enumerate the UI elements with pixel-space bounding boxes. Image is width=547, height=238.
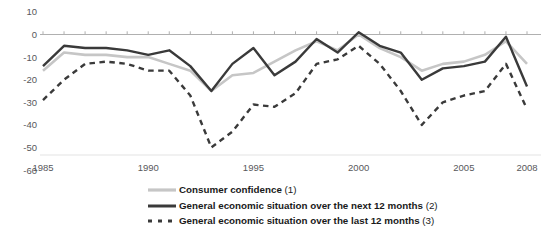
y-axis-tick-label: -50 <box>23 142 37 153</box>
chart-container: 100-10-20-30-40-50-60 198519901995200020… <box>0 0 547 238</box>
legend-label-gen_econ_next_12m: General economic situation over the next… <box>179 200 438 211</box>
y-axis-tick-label: -30 <box>23 97 37 108</box>
legend-label-consumer_confidence: Consumer confidence (1) <box>179 184 297 195</box>
x-axis-tick-label: 1990 <box>138 162 159 173</box>
x-axis-tick-label: 2008 <box>516 162 537 173</box>
y-axis-tick-label: -40 <box>23 119 37 130</box>
y-axis-tick-label: 10 <box>26 6 37 17</box>
y-axis-tick-label: -10 <box>23 52 37 63</box>
legend-label-gen_econ_last_12m: General economic situation over the last… <box>179 215 434 226</box>
x-axis-tick-label: 2000 <box>348 162 369 173</box>
line-chart: 100-10-20-30-40-50-60 198519901995200020… <box>0 0 547 238</box>
y-axis-tick-label: 0 <box>32 29 37 40</box>
x-axis-tick-label: 1995 <box>243 162 264 173</box>
x-axis-tick-label: 1985 <box>32 162 53 173</box>
x-axis-tick-label: 2005 <box>453 162 474 173</box>
y-axis-tick-label: -20 <box>23 74 37 85</box>
